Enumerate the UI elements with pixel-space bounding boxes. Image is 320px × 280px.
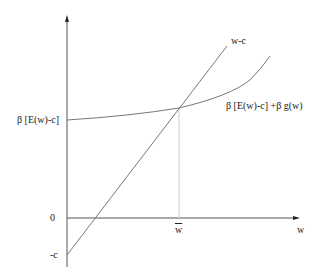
x-label-w-bar: w [175,225,182,235]
label-beta-expected-curve: β [E(w)-c] +β g(w) [226,101,303,111]
line-w-minus-c [67,46,227,255]
y-label-minus-c: -c [50,250,58,260]
x-axis-label: w [297,225,304,235]
label-w-minus-c: w-c [231,36,246,46]
diagram-canvas [0,0,320,280]
x-axis-arrow-icon [293,216,300,220]
y-label-zero: 0 [50,213,55,223]
y-label-beta-expected: β [E(w)-c] [17,115,59,125]
y-axis-arrow-icon [65,15,69,22]
